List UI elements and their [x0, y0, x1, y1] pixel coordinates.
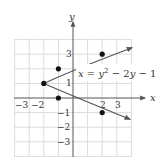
point-neg1-0 — [56, 95, 61, 100]
equation-label: x = y2 − 2y − 1 — [78, 67, 156, 79]
y-tick-label: −1 — [57, 108, 70, 118]
x-tick-label: 3 — [115, 100, 121, 110]
x-axis-label: x — [150, 92, 156, 103]
point-neg2-1 — [41, 81, 46, 86]
y-axis-label: y — [68, 11, 75, 22]
y-tick-label: −2 — [57, 122, 70, 132]
point-2-3 — [100, 52, 105, 57]
x-tick-label: −2 — [31, 100, 44, 110]
point-2-neg1 — [100, 110, 105, 115]
point-neg1-2 — [56, 66, 61, 71]
y-tick-label: 3 — [66, 49, 72, 59]
y-tick-label: 1 — [66, 78, 72, 88]
x-tick-label: −3 — [15, 100, 29, 110]
parabola-chart: x y −3 −2 2 3 3 1 −1 −2 −3 x = y2 − 2y −… — [0, 0, 158, 165]
y-tick-label: −3 — [57, 137, 71, 147]
